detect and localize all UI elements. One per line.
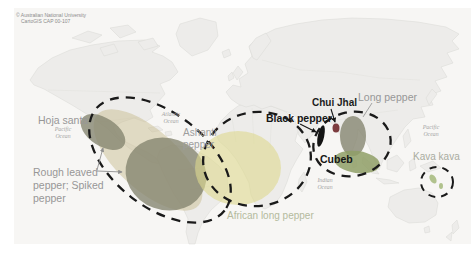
label-long-pepper: Long pepper — [358, 91, 417, 103]
label-hoja-santa: Hoja santa — [38, 114, 88, 126]
label-rough-leaved-3: pepper — [33, 192, 66, 204]
ocean-label-indian: Indian — [316, 177, 332, 183]
label-rough-leaved-2: pepper; Spiked — [33, 179, 104, 191]
label-ashanti-2: pepper — [183, 139, 215, 150]
label-rough-leaved-1: Rough leaved — [33, 166, 98, 178]
ocean-label-pacific-east-2: Ocean — [423, 131, 438, 137]
label-ashanti-1: Ashanti — [183, 127, 216, 138]
blob-chui-jhal-dot — [333, 124, 340, 133]
label-black-pepper: Black pepper — [266, 112, 332, 124]
label-kava-kava: Kava kava — [413, 151, 460, 162]
ocean-label-pacific-east: Pacific — [422, 124, 440, 130]
blob-long-pepper-india — [340, 116, 366, 156]
ocean-label-pacific-west-2: Ocean — [55, 133, 70, 139]
world-map-svg: © Australian National University CartoGI… — [0, 0, 473, 262]
label-chui-jhal: Chui Jhal — [312, 97, 357, 108]
label-cubeb: Cubeb — [320, 153, 353, 165]
pepper-distribution-map-figure: © Australian National University CartoGI… — [0, 0, 473, 262]
label-african-long-pepper: African long pepper — [227, 210, 314, 221]
ocean-label-atlantic-2: Ocean — [163, 118, 178, 124]
ocean-label-indian-2: Ocean — [317, 184, 332, 190]
blob-kava-fiji-2 — [439, 183, 443, 189]
ocean-label-pacific-west: Pacific — [54, 126, 72, 132]
ocean-label-atlantic: Atlantic — [161, 111, 181, 117]
attribution-line2: CartoGIS CAP 00-107 — [21, 18, 71, 24]
